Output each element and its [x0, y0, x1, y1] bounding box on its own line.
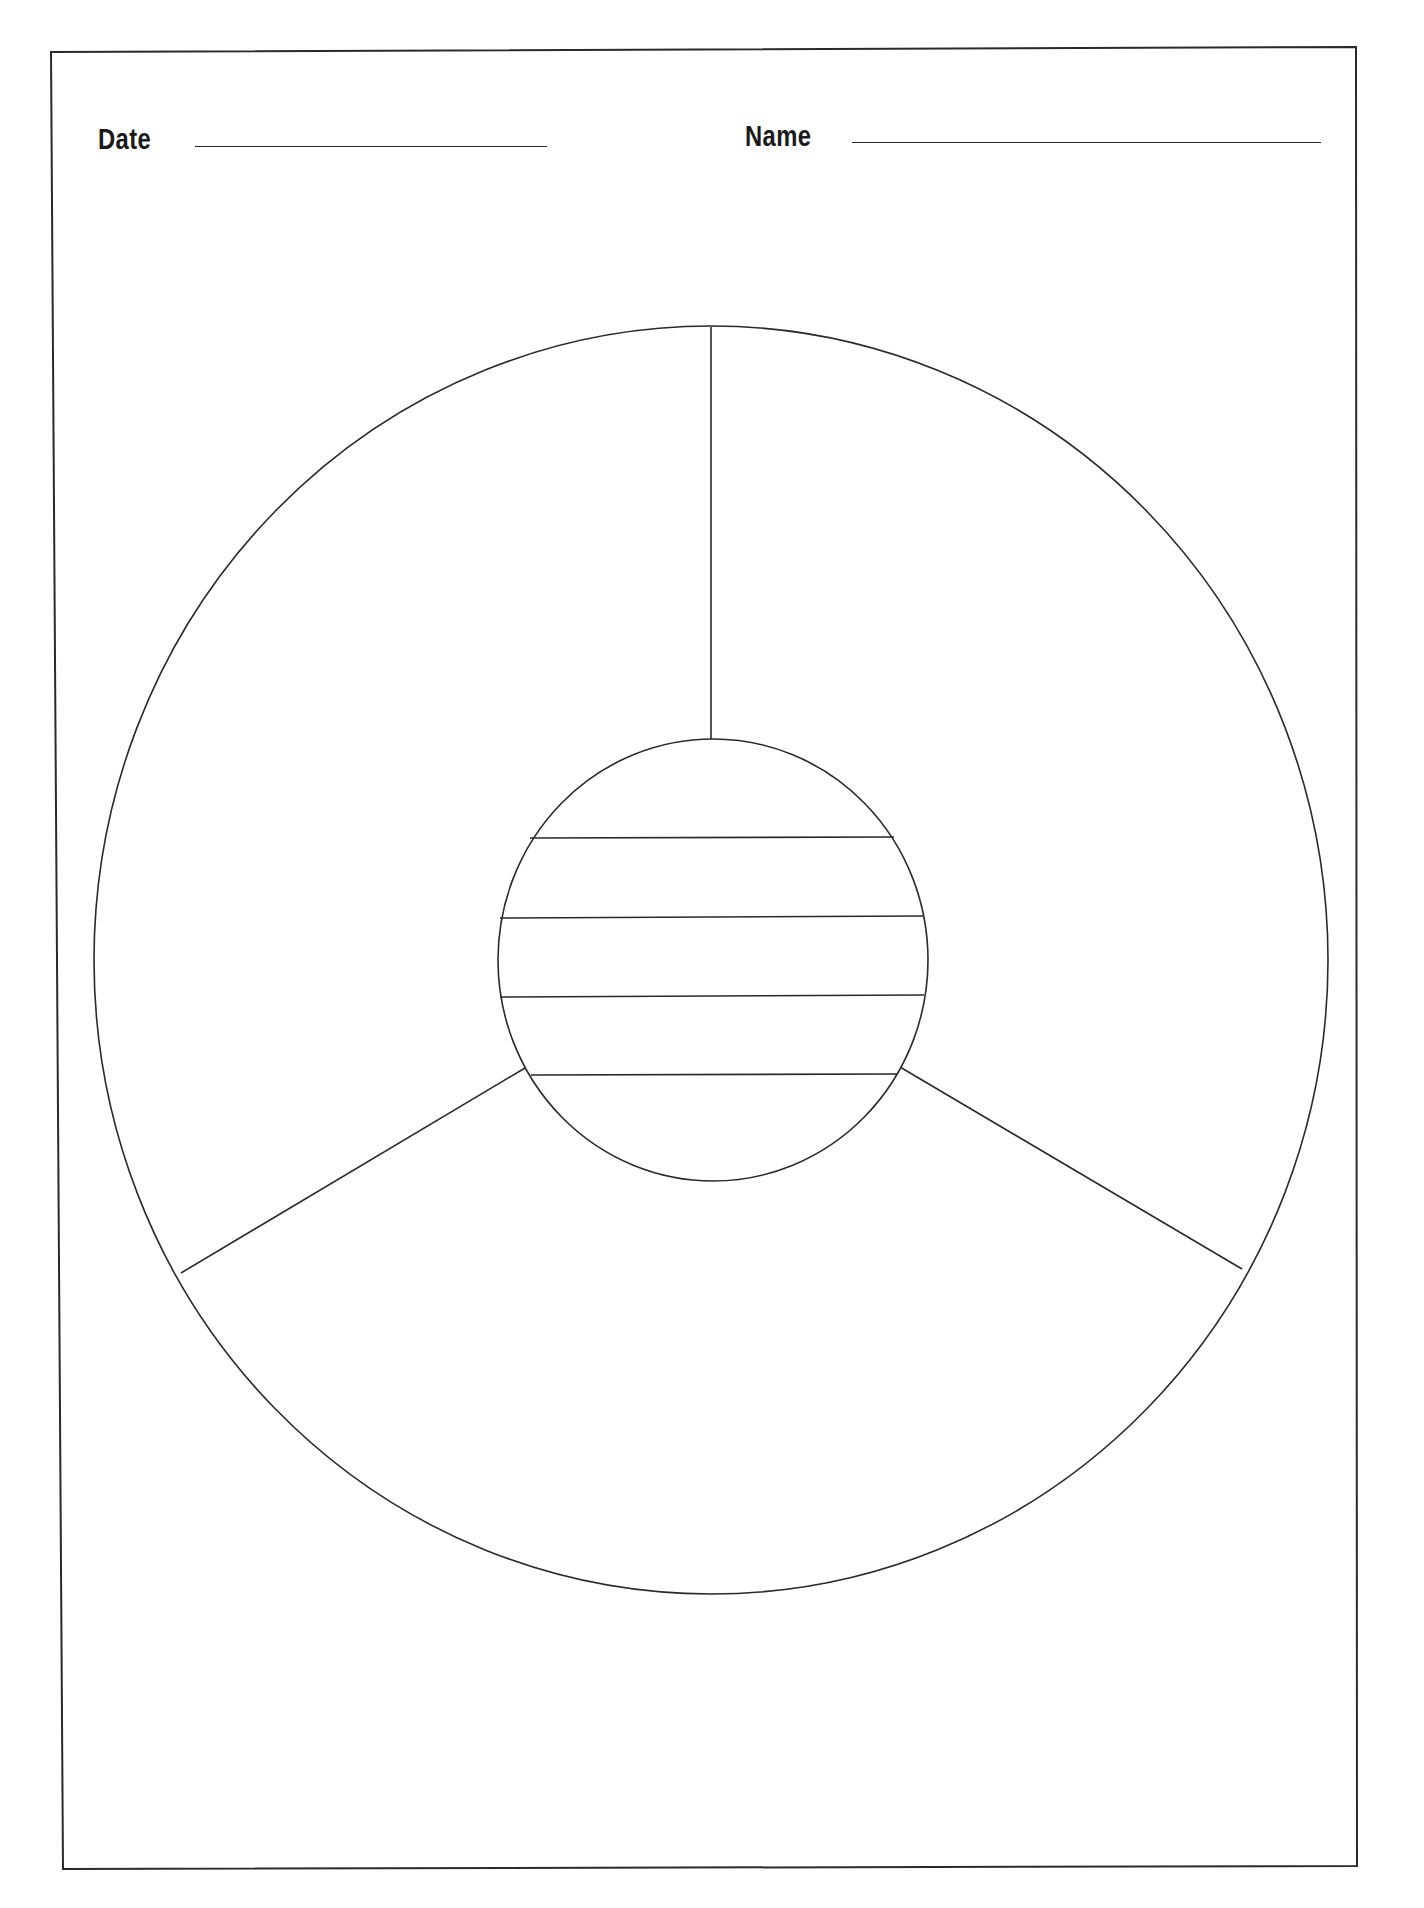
name-field[interactable] — [852, 117, 1321, 143]
worksheet-page: Date Name — [0, 0, 1424, 1908]
date-label: Date — [98, 125, 151, 154]
worksheet-frame-and-diagram — [0, 0, 1424, 1908]
name-label: Name — [745, 122, 811, 151]
center-writing-area[interactable] — [498, 739, 928, 1181]
date-field[interactable] — [195, 121, 547, 147]
